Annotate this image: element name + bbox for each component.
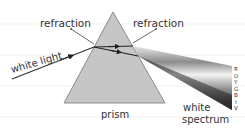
refraction-left-label: refraction: [40, 17, 91, 29]
spectrum-letter-g: G: [234, 86, 238, 92]
spectrum-letter-i: I: [235, 99, 237, 105]
spectrum-letter-o: O: [234, 73, 239, 79]
refraction-right-pointer: [133, 29, 156, 43]
spectrum-letter-r: R: [234, 66, 238, 72]
refraction-left-pointer: [71, 29, 94, 44]
prism-diagram: refraction refraction white light prism …: [0, 0, 245, 133]
white-light-label: white light: [10, 50, 64, 75]
white-spectrum-label-line2: spectrum: [182, 114, 229, 125]
refraction-right-label: refraction: [133, 17, 184, 29]
spectrum-letter-v: V: [234, 105, 238, 111]
prism-label: prism: [101, 109, 129, 120]
white-spectrum-label-line1: white: [183, 102, 210, 113]
spectrum-letter-b: B: [234, 92, 238, 98]
spectrum-letter-y: Y: [233, 79, 238, 85]
spectrum-letters: R O Y G B I V: [233, 66, 239, 111]
